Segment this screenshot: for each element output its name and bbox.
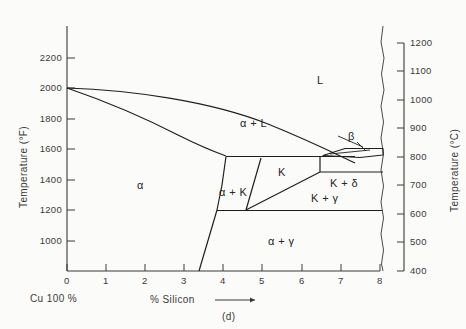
right-tick-label-900: 900 <box>410 122 427 133</box>
solidus-curve <box>67 88 226 156</box>
figure-label: (d) <box>222 311 235 322</box>
right-tick-label-1000: 1000 <box>410 94 432 105</box>
cu-100-percent-label: Cu 100 % <box>30 293 77 304</box>
phase-label-beta: β <box>348 130 355 142</box>
phase-label-alpha-liquid: α + L <box>240 117 267 129</box>
right-tick-label-400: 400 <box>410 265 427 276</box>
left-tick-label-2000: 2000 <box>26 82 62 93</box>
left-tick-label-2200: 2200 <box>26 52 62 63</box>
left-tick-label-1000: 1000 <box>26 235 62 246</box>
right-tick-label-1200: 1200 <box>410 37 432 48</box>
left-tick-label-1600: 1600 <box>26 143 62 154</box>
bottom-tick-label-4: 4 <box>220 275 226 286</box>
bottom-tick-label-8: 8 <box>377 275 383 286</box>
x-axis-arrow <box>215 297 255 302</box>
bottom-tick-label-6: 6 <box>299 275 305 286</box>
phase-diagram-figure <box>0 0 466 329</box>
right-tick-label-1100: 1100 <box>410 65 432 76</box>
alpha-solvus-line <box>217 157 226 211</box>
bottom-tick-label-1: 1 <box>103 275 109 286</box>
liquidus-curve <box>67 88 355 163</box>
right-tick-label-700: 700 <box>410 179 427 190</box>
bottom-tick-label-7: 7 <box>338 275 344 286</box>
phase-label-alpha-gamma: α + γ <box>268 235 294 247</box>
beta-lens-inner-line <box>330 150 370 154</box>
bottom-tick-label-5: 5 <box>259 275 265 286</box>
phase-label-kappa: K <box>278 166 286 178</box>
alpha-solvus-lower-leg <box>199 210 217 271</box>
phase-label-liquid: L <box>317 74 324 86</box>
right-axis-ticks <box>397 43 404 271</box>
phase-label-kappa-gamma: K + γ <box>311 192 338 204</box>
left-tick-label-1800: 1800 <box>26 113 62 124</box>
right-tick-label-600: 600 <box>410 208 427 219</box>
right-tick-label-800: 800 <box>410 151 427 162</box>
right-tick-label-500: 500 <box>410 236 427 247</box>
phase-label-alpha-kappa: α + K <box>219 186 247 198</box>
phase-label-alpha: α <box>137 179 144 191</box>
left-axis-title: Temperature (°F) <box>18 126 29 208</box>
bottom-axis-ticks <box>67 264 380 271</box>
bottom-tick-label-3: 3 <box>181 275 187 286</box>
bottom-axis-title: % Silicon <box>150 294 195 305</box>
phase-label-kappa-delta: K + δ <box>330 177 358 189</box>
left-axis-ticks <box>67 58 75 241</box>
bottom-tick-label-2: 2 <box>142 275 148 286</box>
left-tick-label-1200: 1200 <box>26 204 62 215</box>
left-tick-label-1400: 1400 <box>26 174 62 185</box>
right-axis-title: Temperature (°C) <box>449 129 460 212</box>
bottom-tick-label-0: 0 <box>64 275 70 286</box>
kappa-left-boundary <box>246 158 261 210</box>
